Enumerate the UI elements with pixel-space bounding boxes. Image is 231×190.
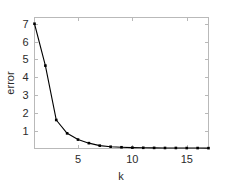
y-axis-tick-labels: 1234567: [22, 18, 28, 137]
x-tick-label: 15: [181, 153, 193, 165]
data-point-marker: [207, 147, 210, 150]
plot-frame: [35, 18, 209, 149]
y-tick-label: 4: [22, 71, 28, 83]
data-point-marker: [153, 147, 156, 150]
y-tick-label: 3: [22, 89, 28, 101]
y-tick-label: 1: [22, 125, 28, 137]
data-point-marker: [98, 144, 101, 147]
x-tick-label: 5: [75, 153, 81, 165]
data-point-marker: [175, 147, 178, 150]
data-point-marker: [88, 142, 91, 145]
y-tick-label: 5: [22, 53, 28, 65]
error-series-line: [35, 24, 209, 148]
data-point-marker: [164, 147, 167, 150]
data-point-marker: [131, 146, 134, 149]
y-axis-ticks: [35, 25, 209, 132]
y-axis-title: error: [4, 71, 16, 95]
data-point-marker: [44, 64, 47, 67]
data-point-marker: [142, 146, 145, 149]
x-tick-label: 10: [126, 153, 138, 165]
data-point-marker: [120, 146, 123, 149]
x-axis-title: k: [118, 170, 124, 182]
data-point-marker: [66, 132, 69, 135]
data-point-marker: [109, 145, 112, 148]
error-vs-k-line-chart: 51015 1234567 k error: [0, 0, 231, 190]
data-point-marker: [55, 119, 58, 122]
data-point-marker: [196, 147, 199, 150]
data-point-marker: [185, 147, 188, 150]
y-tick-label: 6: [22, 36, 28, 48]
figure-canvas: 51015 1234567 k error: [0, 0, 231, 190]
data-point-marker: [77, 138, 80, 141]
y-tick-label: 2: [22, 107, 28, 119]
y-tick-label: 7: [22, 18, 28, 30]
x-axis-ticks: [79, 18, 188, 149]
error-series-markers: [33, 22, 210, 149]
data-point-marker: [33, 22, 36, 25]
x-axis-tick-labels: 51015: [75, 153, 193, 165]
